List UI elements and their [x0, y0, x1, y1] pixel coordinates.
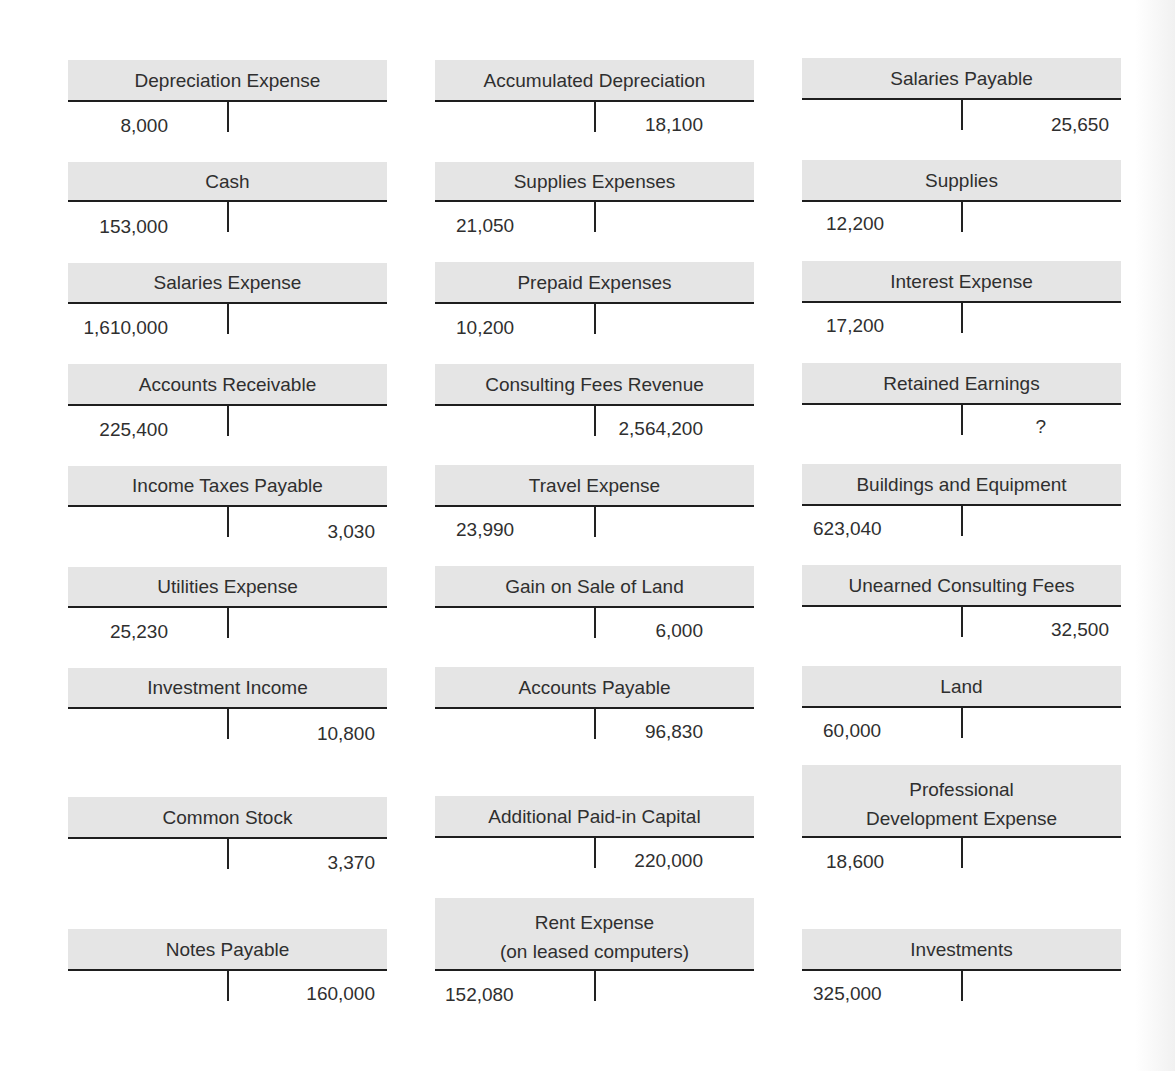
account-title: Notes Payable — [68, 929, 387, 971]
t-stem — [227, 202, 229, 232]
t-stem — [594, 202, 596, 232]
account-title: Land — [802, 666, 1121, 708]
t-stem — [227, 507, 229, 537]
account-title: Interest Expense — [802, 261, 1121, 303]
t-stem — [227, 304, 229, 334]
t-stem — [227, 709, 229, 739]
account-title: Salaries Payable — [802, 58, 1121, 100]
debit-value: 21,050 — [456, 215, 514, 237]
account-title-line2: (on leased computers) — [500, 937, 689, 966]
account-title: Supplies Expenses — [435, 162, 754, 202]
account-title: Buildings and Equipment — [802, 464, 1121, 506]
account-title: Investments — [802, 929, 1121, 971]
account-title: Consulting Fees Revenue — [435, 364, 754, 406]
credit-value: 3,030 — [327, 521, 375, 543]
debit-value: 25,230 — [110, 621, 168, 643]
t-stem — [594, 507, 596, 537]
t-stem — [594, 971, 596, 1001]
credit-value: 25,650 — [1051, 114, 1109, 136]
debit-value: 18,600 — [826, 851, 884, 873]
debit-value: 225,400 — [99, 419, 168, 441]
t-stem — [961, 405, 963, 435]
debit-value: 153,000 — [99, 216, 168, 238]
t-stem — [961, 708, 963, 738]
account-title: Unearned Consulting Fees — [802, 565, 1121, 607]
t-stem — [594, 406, 596, 436]
account-title: Accounts Receivable — [68, 364, 387, 406]
debit-value: 60,000 — [823, 720, 881, 742]
debit-value: 12,200 — [826, 213, 884, 235]
account-title: Professional Development Expense — [802, 765, 1121, 838]
t-stem — [961, 607, 963, 637]
credit-value: 32,500 — [1051, 619, 1109, 641]
account-title: Gain on Sale of Land — [435, 566, 754, 608]
t-stem — [594, 102, 596, 132]
credit-value: 2,564,200 — [618, 418, 703, 440]
credit-value: 220,000 — [634, 850, 703, 872]
t-stem — [961, 506, 963, 536]
t-stem — [227, 839, 229, 869]
t-stem — [227, 406, 229, 436]
debit-value: 623,040 — [813, 518, 882, 540]
account-title: Accumulated Depreciation — [435, 60, 754, 102]
t-stem — [594, 608, 596, 638]
account-title: Accounts Payable — [435, 667, 754, 709]
account-title: Utilities Expense — [68, 567, 387, 608]
debit-value: 17,200 — [826, 315, 884, 337]
account-title: Cash — [68, 162, 387, 202]
credit-value: 6,000 — [655, 620, 703, 642]
t-stem — [594, 709, 596, 739]
debit-value: 152,080 — [445, 984, 514, 1006]
t-stem — [961, 303, 963, 333]
debit-value: 10,200 — [456, 317, 514, 339]
t-stem — [227, 102, 229, 132]
account-title-line1: Professional — [909, 775, 1014, 804]
account-title: Depreciation Expense — [68, 60, 387, 102]
account-title-line1: Rent Expense — [535, 908, 654, 937]
t-stem — [961, 202, 963, 232]
account-title: Investment Income — [68, 668, 387, 709]
page-edge-shadow — [1135, 0, 1175, 1071]
account-title: Salaries Expense — [68, 263, 387, 304]
account-title: Income Taxes Payable — [68, 466, 387, 507]
t-stem — [961, 971, 963, 1001]
account-title: Rent Expense (on leased computers) — [435, 898, 754, 971]
t-stem — [961, 100, 963, 130]
debit-value: 23,990 — [456, 519, 514, 541]
account-title: Travel Expense — [435, 465, 754, 507]
credit-value: 96,830 — [645, 721, 703, 743]
credit-value: 10,800 — [317, 723, 375, 745]
account-title: Common Stock — [68, 797, 387, 839]
account-title: Retained Earnings — [802, 363, 1121, 405]
account-title-line2: Development Expense — [866, 804, 1057, 833]
account-title: Supplies — [802, 160, 1121, 202]
credit-value: 18,100 — [645, 114, 703, 136]
t-stem — [961, 838, 963, 868]
account-title: Additional Paid-in Capital — [435, 796, 754, 838]
debit-value: 1,610,000 — [83, 317, 168, 339]
t-stem — [594, 838, 596, 868]
t-stem — [227, 971, 229, 1001]
debit-value: 325,000 — [813, 983, 882, 1005]
account-title: Prepaid Expenses — [435, 262, 754, 304]
t-stem — [227, 608, 229, 638]
credit-value: 3,370 — [327, 852, 375, 874]
t-stem — [594, 304, 596, 334]
debit-value: 8,000 — [120, 115, 168, 137]
credit-value: 160,000 — [306, 983, 375, 1005]
credit-value: ? — [1035, 416, 1046, 438]
